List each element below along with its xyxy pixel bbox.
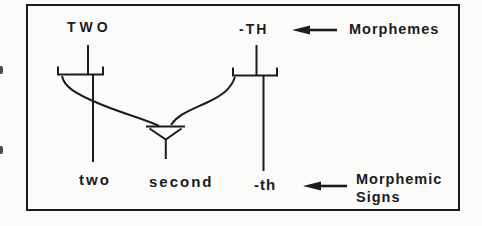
figure-morphemes-diagram: TWO -TH Morphemes two second -th Morphem… [0,0,482,226]
scan-artifact-mark [0,66,3,74]
morpheme-two-label: TWO [67,20,112,34]
morphemic-signs-row-label: Morphemic Signs [356,170,442,206]
sign-second-label: second [149,174,214,189]
morphemes-row-label: Morphemes [349,22,439,37]
morphemes-left-arrow-icon [292,26,337,35]
sign-th-label: -th [254,177,276,192]
morphemic-signs-row-label-line1: Morphemic [356,171,442,187]
left-morpheme-bracket [58,45,159,162]
sign-two-label: two [79,172,111,187]
morphemic-signs-row-label-line2: Signs [356,189,400,205]
scan-artifact-mark [0,146,3,154]
morpheme-th-label: -TH [239,22,268,36]
merge-triangle-icon [146,127,185,160]
right-morpheme-bracket [171,45,277,171]
morphemic-signs-left-arrow-icon [303,182,347,191]
